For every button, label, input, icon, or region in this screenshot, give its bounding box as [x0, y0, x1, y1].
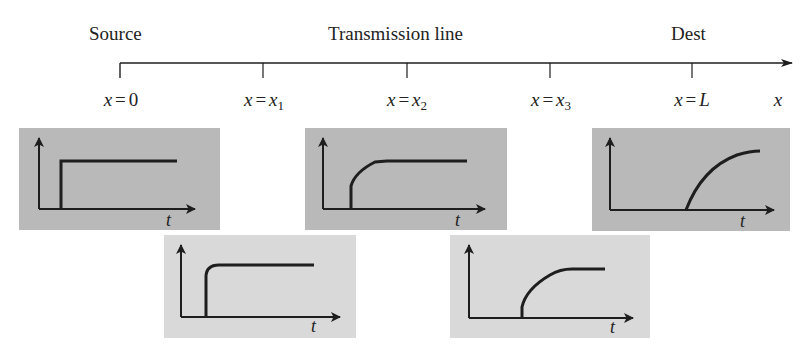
position-label-xL: x=L — [674, 90, 710, 109]
position-label-x1: x=x1 — [244, 90, 284, 112]
waveform-panel-x2: t — [305, 128, 507, 230]
slow-rise-step-waveform-icon — [305, 128, 507, 230]
t-axis-label: t — [166, 211, 171, 229]
waveform-panel-x0: t — [19, 128, 220, 230]
x-axis-label: x — [774, 90, 782, 109]
delayed-slow-rise-waveform-icon — [450, 235, 650, 338]
t-axis-label: t — [610, 318, 615, 336]
position-label-x0: x=0 — [104, 90, 139, 109]
waveform-panel-x3: t — [450, 235, 650, 338]
t-axis-label: t — [455, 211, 460, 229]
t-axis-label: t — [740, 212, 745, 230]
rounded-step-waveform-icon — [164, 235, 356, 338]
position-label-x3: x=x3 — [531, 90, 571, 112]
position-label-x2: x=x2 — [387, 90, 427, 112]
t-axis-label: t — [311, 317, 316, 335]
waveform-panel-x1: t — [164, 235, 356, 338]
smoothed-rise-waveform-icon — [592, 128, 790, 231]
waveform-panel-xL: t — [592, 128, 790, 231]
step-waveform-icon — [19, 128, 220, 230]
